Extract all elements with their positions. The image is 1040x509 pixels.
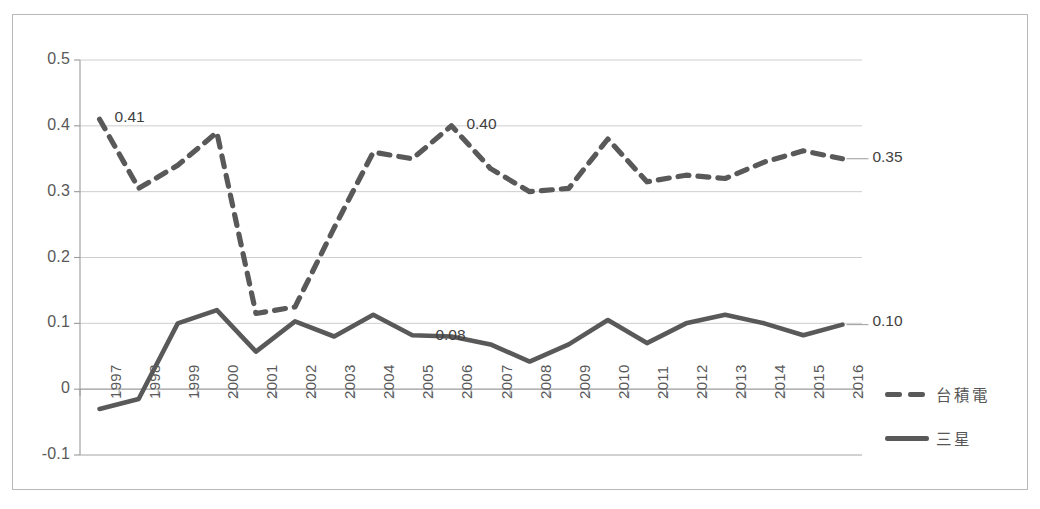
x-tick-label: 2006 — [458, 365, 475, 400]
x-tick-label: 2015 — [810, 365, 827, 400]
x-tick-label: 2013 — [732, 365, 749, 400]
data-label: 0.35 — [872, 148, 902, 166]
y-tick-label: 0.2 — [24, 248, 70, 266]
y-tick-label: 0.4 — [24, 116, 70, 134]
x-tick-label: 2008 — [537, 365, 554, 400]
x-tick-label: 2016 — [849, 365, 866, 400]
x-tick-label: 2004 — [380, 365, 397, 400]
y-tick-label: 0.5 — [24, 50, 70, 68]
y-tick-label: -0.1 — [24, 445, 70, 463]
x-tick-label: 2009 — [576, 365, 593, 400]
data-label: 0.40 — [466, 115, 496, 133]
legend-label: 三星 — [936, 427, 972, 449]
x-tick-label: 2002 — [302, 365, 319, 400]
chart-plot-area — [0, 0, 1040, 509]
x-tick-label: 1998 — [146, 365, 163, 400]
x-tick-label: 2007 — [498, 365, 515, 400]
x-tick-label: 2001 — [263, 365, 280, 400]
legend-item-2[interactable]: 三星 — [885, 427, 972, 449]
series-line-0 — [100, 119, 843, 313]
x-tick-label: 2012 — [693, 365, 710, 400]
dashed-line-icon — [885, 387, 929, 401]
y-axis-ticks — [74, 60, 80, 455]
data-label: 0.08 — [435, 326, 465, 344]
y-tick-label: 0.3 — [24, 182, 70, 200]
solid-line-icon — [885, 431, 929, 445]
y-tick-label: 0 — [24, 379, 70, 397]
data-label: 0.41 — [115, 108, 145, 126]
x-tick-label: 2010 — [615, 365, 632, 400]
x-tick-label: 2003 — [341, 365, 358, 400]
x-tick-label: 2011 — [654, 366, 671, 399]
x-tick-label: 1999 — [185, 365, 202, 400]
legend-item-1[interactable]: 台積電 — [885, 383, 990, 405]
data-label: 0.10 — [872, 312, 902, 330]
x-tick-label: 1997 — [107, 365, 124, 400]
x-tick-label: 2005 — [419, 365, 436, 400]
chart-screenshot: 0.50.40.30.20.10-0.1 1997199819992000200… — [0, 0, 1040, 509]
x-tick-label: 2000 — [224, 365, 241, 400]
y-tick-label: 0.1 — [24, 313, 70, 331]
legend-label: 台積電 — [936, 383, 990, 405]
annotation-leader-lines — [846, 159, 868, 325]
x-tick-label: 2014 — [771, 365, 788, 400]
